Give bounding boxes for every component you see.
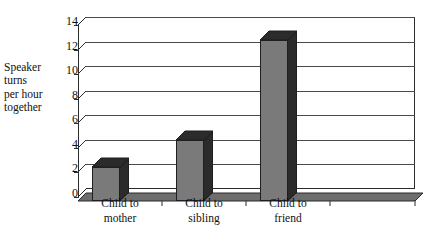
gridline-2 xyxy=(86,164,415,165)
gridline-10 xyxy=(86,66,415,67)
bar-top-face-2 xyxy=(176,131,204,140)
bar-top-face-1 xyxy=(92,158,120,167)
y-tick-mark-10 xyxy=(74,74,79,75)
x-label-child-to-friend: Child to friend xyxy=(246,196,330,226)
y-tick-mark-2 xyxy=(74,172,79,173)
x-label-child-to-sibling: Child to sibling xyxy=(162,196,246,226)
gridline-4 xyxy=(86,140,415,141)
bar-top-face-3 xyxy=(260,31,288,40)
gridline-8 xyxy=(86,91,415,92)
y-tick-mark-12 xyxy=(74,50,79,51)
depth-connector-2 xyxy=(78,172,90,184)
y-axis-tick-labels: 0 2 4 6 8 10 12 14 xyxy=(48,17,78,197)
x-label-3-line-1: Child to xyxy=(246,196,330,211)
y-tick-mark-6 xyxy=(74,123,79,124)
depth-connector-6 xyxy=(78,123,90,135)
bar-front-face-2 xyxy=(176,140,204,201)
x-label-child-to-mother: Child to mother xyxy=(78,196,162,226)
gridline-6 xyxy=(86,115,415,116)
y-tick-mark-14 xyxy=(74,25,79,26)
depth-connector-12 xyxy=(78,50,90,62)
depth-connector-10 xyxy=(78,74,90,86)
bar-side-face-3 xyxy=(288,31,297,201)
x-label-1-line-1: Child to xyxy=(78,196,162,211)
depth-connector-14 xyxy=(78,25,90,37)
x-label-2-line-2: sibling xyxy=(162,211,246,226)
x-axis-tick-labels: Child to mother Child to sibling Child t… xyxy=(78,196,423,236)
bar-child-to-friend[interactable] xyxy=(260,40,288,201)
depth-connector-8 xyxy=(78,99,90,111)
depth-connector-4 xyxy=(78,148,90,160)
plot-background xyxy=(86,17,415,189)
x-label-2-line-1: Child to xyxy=(162,196,246,211)
gridline-14 xyxy=(86,17,415,18)
bar-side-face-2 xyxy=(204,131,213,201)
y-tick-mark-4 xyxy=(74,148,79,149)
plot-area xyxy=(86,17,415,189)
bar-child-to-sibling[interactable] xyxy=(176,140,204,201)
x-label-1-line-2: mother xyxy=(78,211,162,226)
bar-chart: Speaker turns per hour together 0 2 4 6 … xyxy=(0,0,426,238)
x-label-3-line-2: friend xyxy=(246,211,330,226)
gridline-12 xyxy=(86,42,415,43)
bar-front-face-3 xyxy=(260,40,288,201)
y-tick-mark-8 xyxy=(74,99,79,100)
